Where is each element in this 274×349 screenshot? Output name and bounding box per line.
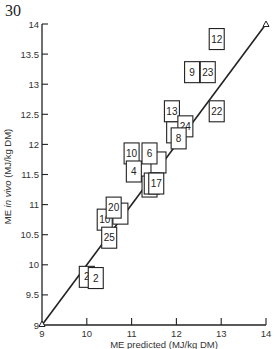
x-tick-label: 14 [261,328,272,339]
data-point-box: 2 [88,268,103,289]
data-points: 12923132224810641710202522 [79,29,224,289]
y-tick-label: 13.5 [21,49,40,60]
data-point-box: 17 [149,173,164,194]
data-point-box: 8 [171,128,186,149]
y-tick-label: 10.5 [21,229,40,240]
y-tick-label: 11 [29,199,39,210]
data-point-box: 22 [209,101,224,122]
data-point-label: 10 [126,148,138,159]
data-point-box: 6 [142,143,157,164]
x-tick-label: 11 [127,328,137,339]
data-point-label: 20 [108,202,120,213]
data-point-label: 8 [176,133,182,144]
data-point-label: 23 [202,67,214,78]
x-tick-label: 13 [216,328,227,339]
y-tick-label: 13 [28,79,39,90]
data-point-label: 2 [93,273,99,284]
data-point-box: 9 [185,62,200,83]
y-tick-label: 12.5 [21,109,40,120]
y-tick-label: 9 [34,320,39,331]
data-point-label: 25 [104,232,116,243]
data-point-box: 20 [106,197,121,218]
data-point-box: 12 [209,29,224,50]
data-point-box: 4 [126,161,141,182]
x-tick-label: 10 [82,328,93,339]
y-tick-label: 12 [28,139,39,150]
data-point-box: 23 [200,62,215,83]
data-point-label: 4 [131,166,137,177]
data-point-label: 13 [166,106,178,117]
data-point-box: 13 [164,101,179,122]
data-point-label: 22 [211,106,223,117]
data-point-box: 25 [102,227,117,248]
y-axis-title: ME in vivo (MJ/kg DM) [2,129,13,225]
data-point-label: 6 [147,148,153,159]
y-tick-label: 9.5 [26,289,39,300]
y-tick-label: 11.5 [21,169,39,180]
data-point-label: 9 [189,67,195,78]
x-tick-label: 12 [171,328,182,339]
x-tick-label: 9 [39,328,44,339]
triangle-marker [263,21,269,27]
scatter-chart: 12923132224810641710202522 9101112131499… [0,0,274,349]
data-point-label: 12 [211,34,223,45]
x-axis-title: ME predicted (MJ/kg DM) [110,339,218,349]
y-tick-label: 14 [28,19,39,30]
data-point-label: 17 [151,178,163,189]
y-tick-label: 10 [28,259,39,270]
